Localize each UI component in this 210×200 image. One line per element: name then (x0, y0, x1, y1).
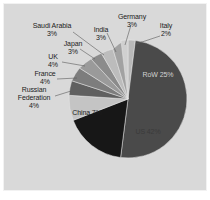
slice-label-us-pct: 42% (147, 128, 161, 135)
slice-label-uk-pct: 4% (40, 61, 66, 69)
slice-label-china-name: China (72, 109, 90, 116)
slice-label-germany-pct: 3% (112, 21, 152, 29)
slice-label-china-pct: 7% (92, 109, 102, 116)
slice-label-saudi-arabia-pct: 3% (22, 30, 82, 38)
slice-label-russian-federation-name-line1: Russian (22, 86, 47, 93)
slice-label-india-pct: 3% (86, 34, 116, 42)
slice-label-uk-name: UK (48, 53, 58, 60)
slice-label-russian-federation-pct: 4% (10, 102, 58, 110)
slice-label-uk: UK 4% (40, 53, 66, 69)
slice-label-france-name: France (34, 70, 55, 77)
slice-label-russian-federation-name-line2: Federation (10, 94, 58, 102)
slice-label-india-name: India (94, 26, 109, 33)
slice-label-row-name: RoW (143, 71, 158, 78)
slice-label-italy: Italy 2% (152, 22, 180, 38)
slice-label-italy-name: Italy (160, 22, 172, 29)
slice-label-china: China 7% (70, 109, 104, 117)
slice-label-france: France 4% (27, 70, 63, 86)
slice-label-russian-federation: Russian Federation 4% (10, 86, 58, 110)
slice-label-us: US 42% (133, 128, 163, 136)
slice-label-germany-name: Germany (118, 13, 146, 20)
slice-label-italy-pct: 2% (152, 30, 180, 38)
slice-label-row: RoW 25% (141, 71, 175, 79)
slice-label-saudi-arabia: Saudi Arabia 3% (22, 22, 82, 38)
slice-label-us-name: US (135, 128, 145, 135)
slice-label-france-pct: 4% (27, 78, 63, 86)
slice-label-saudi-arabia-name: Saudi Arabia (33, 22, 72, 29)
slice-label-row-pct: 25% (160, 71, 174, 78)
chart-image: Saudi Arabia 3% India 3% Germany 3% Ital… (0, 0, 210, 200)
slice-label-germany: Germany 3% (112, 13, 152, 29)
slice-label-japan-name: Japan (64, 40, 83, 47)
pie-slices (69, 40, 187, 158)
